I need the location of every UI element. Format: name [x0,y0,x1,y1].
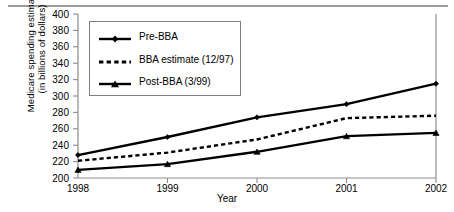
data-point-marker [254,115,259,120]
data-point-marker [344,102,349,107]
x-axis-title: Year [0,193,454,204]
legend-item-bba-estimate: BBA estimate (12/97) [98,53,234,67]
y-tick-label: 260 [52,123,69,134]
y-tick-label: 320 [52,74,69,85]
y-tick-label: 340 [52,58,69,69]
y-axis-tick-labels: 400380360340320300280260240220200 [52,9,78,184]
y-tick-label: 380 [52,25,69,36]
y-tick-label: 400 [52,9,69,20]
data-point-marker [165,134,170,139]
x-axis-tick-labels: 19981999200020012002 [67,178,448,194]
chart-figure: Medicare spending estimates (in billions… [0,0,454,212]
y-tick-label: 280 [52,107,69,118]
legend-item-post-bba: Post-BBA (3/99) [98,75,211,89]
legend-swatch-bba-estimate [98,54,132,66]
legend-label-pre-bba: Pre-BBA [139,31,178,43]
data-point-marker [75,152,80,157]
legend-label-post-bba: Post-BBA (3/99) [139,76,211,88]
y-tick-label: 360 [52,41,69,52]
legend-label-bba-estimate: BBA estimate (12/97) [139,54,234,66]
data-point-marker [433,81,438,86]
legend-item-pre-bba: Pre-BBA [98,30,178,44]
legend-swatch-post-bba [98,76,132,88]
legend-swatch-pre-bba [98,31,132,43]
y-tick-label: 300 [52,91,69,102]
y-tick-label: 240 [52,140,69,151]
y-tick-label: 220 [52,156,69,167]
y-tick-label: 200 [52,173,69,184]
chart-legend: Pre-BBA BBA estimate (12/97) Post-BBA (3… [89,21,241,96]
